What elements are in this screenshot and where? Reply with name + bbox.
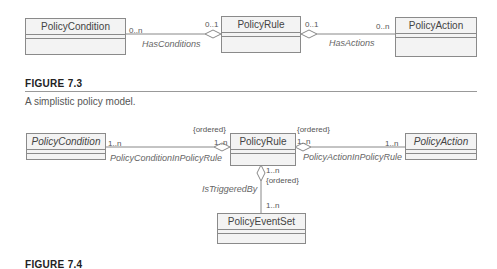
constraint: {ordered} [266,176,299,185]
constraint: {ordered} [297,125,330,134]
association-name: HasConditions [142,39,201,49]
class-name: PolicyRule [231,134,295,150]
attributes-compartment [222,33,300,37]
multiplicity: 0..n [376,22,389,31]
figure-label: FIGURE 7.4 [25,259,82,269]
class-name: PolicyCondition [26,19,125,35]
class-name: PolicyCondition [27,134,105,150]
class-policy-action[interactable]: PolicyAction [395,17,477,57]
multiplicity: 1..n [108,139,121,148]
multiplicity: 0..n [129,26,142,35]
class-name: PolicyAction [396,18,476,34]
aggregation-diamond-icon [205,30,221,38]
attributes-compartment [406,150,476,154]
class-policy-condition[interactable]: PolicyCondition [26,133,106,160]
aggregation-diamond-icon [257,165,265,181]
attributes-compartment [396,34,476,38]
class-name: PolicyAction [406,134,476,150]
figure-caption: A simplistic policy model. [25,96,136,107]
association-name: HasActions [329,38,375,48]
class-policy-rule[interactable]: PolicyRule [230,133,296,166]
class-policy-event-set[interactable]: PolicyEventSet [217,213,306,244]
attributes-compartment [218,230,305,234]
multiplicity: 1..n [385,139,398,148]
attributes-compartment [27,150,105,154]
multiplicity: 0..1 [205,20,218,29]
association-name: IsTriggeredBy [202,184,257,194]
association-name: PolicyConditionInPolicyRule [110,153,222,163]
divider [25,91,477,92]
class-policy-action[interactable]: PolicyAction [405,133,477,160]
association-name: PolicyActionInPolicyRule [303,152,402,162]
multiplicity: 1..n [214,138,227,147]
attributes-compartment [26,35,125,39]
multiplicity: 1..n [297,137,310,146]
multiplicity: 1..n [266,201,279,210]
multiplicity: 0..1 [305,20,318,29]
attributes-compartment [231,150,295,154]
multiplicity: 1..n [266,166,279,175]
class-name: PolicyRule [222,17,300,33]
constraint: {ordered} [193,125,226,134]
class-name: PolicyEventSet [218,214,305,230]
class-policy-rule[interactable]: PolicyRule [221,16,301,53]
aggregation-diamond-icon [301,30,317,38]
figure-label: FIGURE 7.3 [25,78,82,89]
class-policy-condition[interactable]: PolicyCondition [25,18,126,55]
